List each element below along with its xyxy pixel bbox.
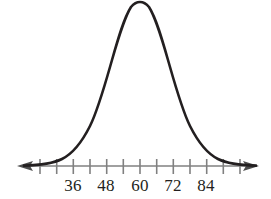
- bell-curve-path: [24, 2, 256, 166]
- bell-curve-figure: 36 48 60 72 84: [0, 0, 271, 199]
- bell-curve-svg: [0, 0, 271, 199]
- tick-label-84: 84: [186, 177, 226, 194]
